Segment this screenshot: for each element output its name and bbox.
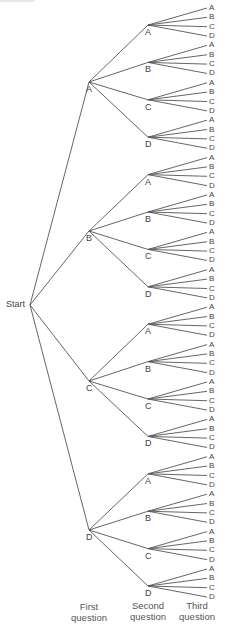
tree-edge [148,83,207,100]
second-question-node-a: A [145,178,151,187]
tree-edge [89,175,148,231]
column-label-first-question: First question [59,601,119,623]
second-question-node-d: D [145,589,152,598]
third-question-leaf-b: B [209,126,214,134]
first-question-node-b: B [86,234,92,243]
third-question-leaf-a: A [209,191,214,199]
third-question-leaf-a: A [209,266,214,274]
third-question-leaf-a: A [209,565,214,573]
second-question-node-b: B [145,365,151,374]
tree-edge [148,345,207,362]
tree-edge [148,532,207,549]
tree-edge [148,167,207,175]
tree-edge [148,569,207,586]
third-question-leaf-b: B [209,313,214,321]
tree-edge [148,242,207,250]
third-question-leaf-a: A [209,154,214,162]
third-question-leaf-d: D [209,107,215,115]
third-question-leaf-d: D [209,32,215,40]
third-question-leaf-a: A [209,453,214,461]
third-question-leaf-d: D [209,331,215,339]
second-question-node-d: D [145,439,152,448]
tree-edge [148,195,207,212]
tree-edge [148,55,207,63]
third-question-leaf-a: A [209,528,214,536]
third-question-leaf-d: D [209,69,215,77]
third-question-leaf-c: C [209,434,215,442]
tree-edge [89,381,148,436]
third-question-leaf-d: D [209,219,215,227]
third-question-leaf-c: C [209,546,215,554]
third-question-leaf-b: B [209,387,214,395]
third-question-leaf-a: A [209,79,214,87]
third-question-leaf-b: B [209,537,214,545]
third-question-leaf-a: A [209,228,214,236]
second-question-node-c: C [145,252,152,261]
tree-edge [89,231,148,249]
third-question-leaf-d: D [209,481,215,489]
third-question-leaf-c: C [209,472,215,480]
third-question-leaf-c: C [209,397,215,405]
third-question-leaf-d: D [209,369,215,377]
second-question-node-c: C [145,103,152,112]
third-question-leaf-c: C [209,135,215,143]
second-question-node-c: C [145,402,152,411]
tree-edge [148,92,207,100]
third-question-leaf-d: D [209,443,215,451]
tree-edge [30,305,89,530]
tree-edge [148,382,207,399]
tree-edge [148,578,207,586]
tree-edge [89,62,148,82]
third-question-leaf-d: D [209,406,215,414]
third-question-leaf-b: B [209,13,214,21]
third-question-leaf-b: B [209,574,214,582]
second-question-node-a: A [145,327,151,336]
third-question-leaf-c: C [209,172,215,180]
first-question-node-c: C [86,384,93,393]
tree-edge [89,530,148,586]
column-label-line: question [167,611,227,622]
tree-edge [89,474,148,530]
tree-edge [148,8,207,25]
third-question-leaf-c: C [209,60,215,68]
third-question-leaf-d: D [209,518,215,526]
third-question-leaf-c: C [209,285,215,293]
third-question-leaf-b: B [209,88,214,96]
tree-edge [148,541,207,549]
third-question-leaf-c: C [209,584,215,592]
tree-edge [148,232,207,249]
tree-edge [148,466,207,474]
tree-edge [148,429,207,437]
tree-edge [148,457,207,474]
third-question-leaf-b: B [209,163,214,171]
tree-edge [148,419,207,436]
third-question-leaf-a: A [209,490,214,498]
third-question-leaf-c: C [209,210,215,218]
third-question-leaf-a: A [209,41,214,49]
start-node-label: Start [6,300,25,309]
tree-edge [148,317,207,325]
third-question-leaf-d: D [209,144,215,152]
third-question-leaf-b: B [209,238,214,246]
third-question-leaf-c: C [209,98,215,106]
third-question-leaf-a: A [209,415,214,423]
third-question-leaf-c: C [209,509,215,517]
column-label-line: question [59,612,119,623]
third-question-leaf-b: B [209,200,214,208]
third-question-leaf-a: A [209,303,214,311]
tree-edge [148,391,207,399]
third-question-leaf-b: B [209,275,214,283]
tree-edge [148,504,207,512]
tree-edge [30,82,89,305]
third-question-leaf-a: A [209,341,214,349]
second-question-node-b: B [145,215,151,224]
third-question-leaf-c: C [209,247,215,255]
tree-edge [89,362,148,381]
tree-edges [0,0,232,630]
tree-edge [89,82,148,100]
tree-edge [89,530,148,549]
tree-edge [89,231,148,287]
tree-edge [89,381,148,399]
third-question-leaf-b: B [209,350,214,358]
third-question-leaf-b: B [209,500,214,508]
